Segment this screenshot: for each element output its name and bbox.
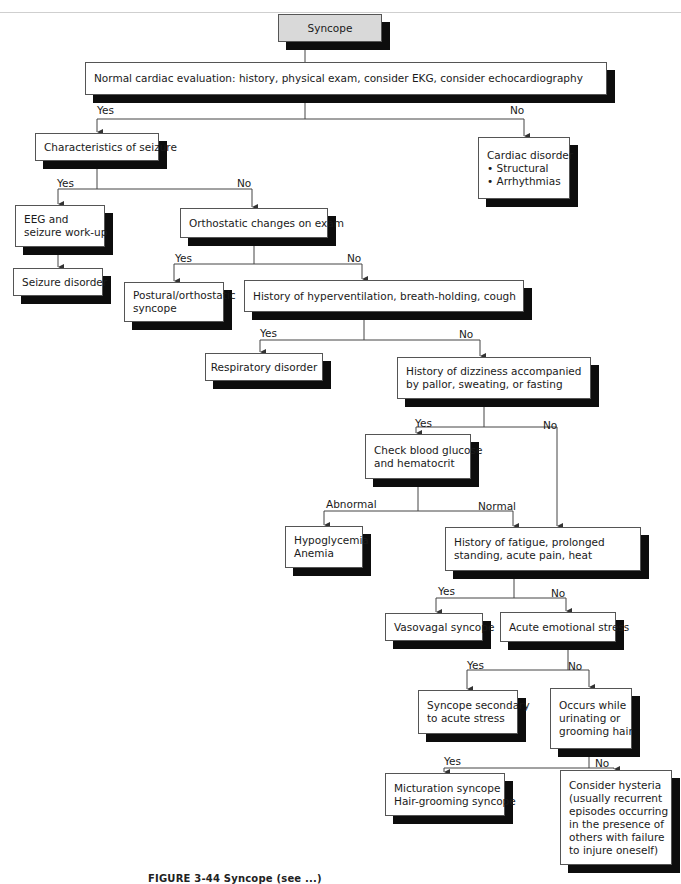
- node-dizziness-history: History of dizziness accompanied by pall…: [397, 357, 591, 399]
- node-check-blood-glucose: Check blood glucose and hematocrit: [365, 434, 471, 479]
- figure-caption: FIGURE 3-44 Syncope (see ...): [148, 873, 322, 884]
- node-box: Consider hysteria (usually recurrent epi…: [560, 770, 672, 865]
- node-cardiac-disorder: Cardiac disorder • Structural • Arrhythm…: [478, 137, 570, 199]
- node-text: by pallor, sweating, or fasting: [406, 378, 582, 391]
- node-box: History of dizziness accompanied by pall…: [397, 357, 591, 399]
- node-text: to acute stress: [427, 712, 509, 725]
- node-text: in the presence of: [569, 818, 663, 831]
- node-text: Occurs while: [559, 699, 623, 712]
- node-text: Syncope secondary: [427, 699, 509, 712]
- edge-label-fatigue-no: No: [551, 587, 565, 599]
- node-cardiac-evaluation: Normal cardiac evaluation: history, phys…: [85, 62, 607, 95]
- node-text: Respiratory disorder: [211, 361, 318, 374]
- node-postural-syncope: Postural/orthostatic syncope: [124, 282, 224, 322]
- node-box: Postural/orthostatic syncope: [124, 282, 224, 322]
- edge-label-glucose-normal: Normal: [478, 500, 516, 512]
- node-text: urinating or: [559, 712, 623, 725]
- node-orthostatic-changes: Orthostatic changes on exam: [180, 208, 328, 238]
- node-characteristics-of-seizure: Characteristics of seizure: [35, 133, 159, 161]
- node-text: Consider hysteria: [569, 779, 663, 792]
- node-box: Check blood glucose and hematocrit: [365, 434, 471, 479]
- node-text: Characteristics of seizure: [44, 141, 150, 154]
- node-acute-emotional-stress: Acute emotional stress: [500, 612, 616, 642]
- node-box: Seizure disorder: [13, 268, 103, 296]
- node-text: Hypoglycemia: [294, 534, 354, 547]
- edge-label-fatigue-yes: Yes: [438, 585, 455, 597]
- node-box: Micturation syncope Hair-grooming syncop…: [385, 773, 505, 816]
- node-box: Orthostatic changes on exam: [180, 208, 328, 238]
- node-text: Syncope: [308, 22, 353, 35]
- edge-label-hyper-yes: Yes: [260, 327, 277, 339]
- node-text-bullet: • Arrhythmias: [487, 175, 561, 188]
- node-hypoglycemia-anemia: Hypoglycemia Anemia: [285, 526, 363, 568]
- edge-label-glucose-abnormal: Abnormal: [326, 498, 377, 510]
- edge-label-emotional-yes: Yes: [467, 659, 484, 671]
- edge-label-urinating-no: No: [595, 757, 609, 769]
- node-box: History of hyperventilation, breath-hold…: [244, 280, 524, 312]
- edge-label-dizzy-yes: Yes: [415, 417, 432, 429]
- node-text: History of fatigue, prolonged: [454, 536, 632, 549]
- node-box: Hypoglycemia Anemia: [285, 526, 363, 568]
- node-text: Micturation syncope: [394, 782, 496, 795]
- node-text: Anemia: [294, 547, 354, 560]
- node-micturation-syncope: Micturation syncope Hair-grooming syncop…: [385, 773, 505, 816]
- node-box: History of fatigue, prolonged standing, …: [445, 527, 641, 571]
- node-box: Respiratory disorder: [205, 353, 323, 381]
- node-box: Acute emotional stress: [500, 612, 616, 642]
- node-text: Postural/orthostatic: [133, 289, 215, 302]
- node-seizure-disorder: Seizure disorder: [13, 268, 103, 296]
- node-eeg-seizure-workup: EEG and seizure work-up: [15, 205, 105, 247]
- node-respiratory-disorder: Respiratory disorder: [205, 353, 323, 381]
- node-fatigue-history: History of fatigue, prolonged standing, …: [445, 527, 641, 571]
- edge-label-seizure-yes: Yes: [57, 177, 74, 189]
- edge-label-cardiac-no: No: [510, 104, 524, 116]
- node-box: EEG and seizure work-up: [15, 205, 105, 247]
- node-text: Hair-grooming syncope: [394, 795, 496, 808]
- node-box: Syncope: [278, 14, 382, 42]
- node-syncope: Syncope: [278, 14, 382, 42]
- edge-label-ortho-no: No: [347, 252, 361, 264]
- node-consider-hysteria: Consider hysteria (usually recurrent epi…: [560, 770, 672, 865]
- node-hyperventilation-history: History of hyperventilation, breath-hold…: [244, 280, 524, 312]
- node-text: Normal cardiac evaluation: history, phys…: [94, 72, 598, 85]
- edge-label-seizure-no: No: [237, 177, 251, 189]
- node-text: others with failure: [569, 831, 663, 844]
- node-box: Syncope secondary to acute stress: [418, 690, 518, 734]
- edge-label-hyper-no: No: [459, 328, 473, 340]
- node-box: Characteristics of seizure: [35, 133, 159, 161]
- node-box: Cardiac disorder • Structural • Arrhythm…: [478, 137, 570, 199]
- node-text: History of hyperventilation, breath-hold…: [253, 290, 515, 303]
- node-box: Occurs while urinating or grooming hair: [550, 688, 632, 749]
- node-text: Vasovagal syncope: [394, 621, 474, 634]
- node-text: Acute emotional stress: [509, 621, 607, 634]
- node-box: Vasovagal syncope: [385, 613, 483, 641]
- node-text: Cardiac disorder: [487, 149, 561, 162]
- edge-label-emotional-no: No: [568, 660, 582, 672]
- node-urinating-grooming: Occurs while urinating or grooming hair: [550, 688, 632, 749]
- edge-label-urinating-yes: Yes: [444, 755, 461, 767]
- node-text: grooming hair: [559, 725, 623, 738]
- node-text: to injure oneself): [569, 844, 663, 857]
- node-text: (usually recurrent: [569, 792, 663, 805]
- node-syncope-secondary-stress: Syncope secondary to acute stress: [418, 690, 518, 734]
- node-text: Seizure disorder: [22, 276, 94, 289]
- edge-label-ortho-yes: Yes: [175, 252, 192, 264]
- node-text: syncope: [133, 302, 215, 315]
- node-text-bullet: • Structural: [487, 162, 561, 175]
- node-text: seizure work-up: [24, 226, 96, 239]
- node-box: Normal cardiac evaluation: history, phys…: [85, 62, 607, 95]
- node-text: Check blood glucose: [374, 444, 462, 457]
- node-text: episodes occurring: [569, 805, 663, 818]
- node-vasovagal-syncope: Vasovagal syncope: [385, 613, 483, 641]
- node-text: standing, acute pain, heat: [454, 549, 632, 562]
- node-text: EEG and: [24, 213, 96, 226]
- edge-label-dizzy-no: No: [543, 419, 557, 431]
- node-text: and hematocrit: [374, 457, 462, 470]
- edge-label-cardiac-yes: Yes: [97, 104, 114, 116]
- node-text: History of dizziness accompanied: [406, 365, 582, 378]
- node-text: Orthostatic changes on exam: [189, 217, 319, 230]
